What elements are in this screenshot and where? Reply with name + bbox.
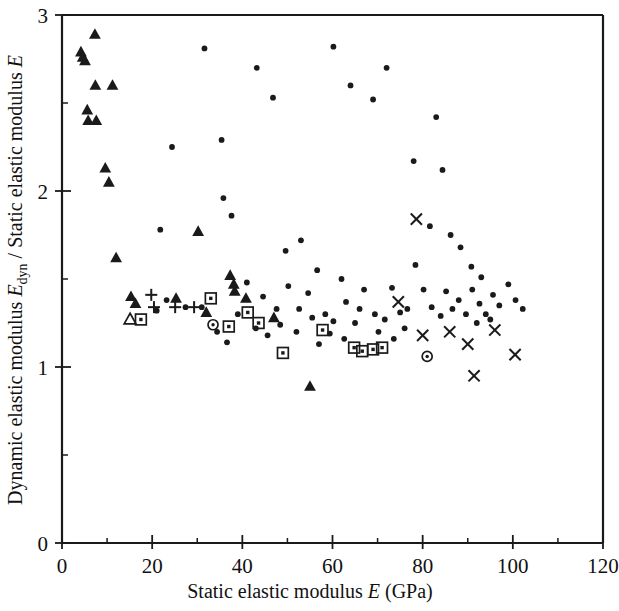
data-point-dot bbox=[382, 317, 388, 323]
data-point-filled-triangle bbox=[99, 162, 111, 173]
data-point-dot bbox=[469, 287, 475, 293]
data-point-dot bbox=[357, 306, 363, 312]
data-point-dot bbox=[235, 311, 241, 317]
data-point-filled-triangle bbox=[110, 252, 122, 263]
data-point-open-square-core bbox=[246, 311, 249, 314]
data-point-dot bbox=[254, 65, 260, 71]
y-tick-label: 2 bbox=[38, 180, 49, 204]
data-point-dot bbox=[404, 306, 410, 312]
data-point-dot bbox=[183, 304, 189, 310]
data-point-dot bbox=[438, 313, 444, 319]
data-point-filled-triangle bbox=[224, 269, 236, 280]
data-point-dot bbox=[520, 306, 526, 312]
data-point-filled-triangle bbox=[304, 380, 316, 391]
y-tick-label: 0 bbox=[38, 532, 49, 556]
chart-canvas: 020406080100120 0123 Static elastic modu… bbox=[0, 0, 619, 611]
data-point-dot bbox=[331, 318, 337, 324]
data-point-dot bbox=[477, 301, 483, 307]
data-point-dot bbox=[244, 280, 250, 286]
data-point-dot bbox=[483, 311, 489, 317]
data-point-open-square-core bbox=[380, 346, 383, 349]
data-point-dot bbox=[421, 287, 427, 293]
data-point-dot bbox=[229, 213, 235, 219]
data-point-dot bbox=[331, 44, 337, 50]
data-point-dot bbox=[199, 304, 205, 310]
data-point-dot bbox=[214, 329, 220, 335]
data-point-dot bbox=[270, 95, 276, 101]
data-point-dot bbox=[265, 332, 271, 338]
data-point-open-square-core bbox=[227, 325, 230, 328]
data-point-dot bbox=[513, 297, 519, 303]
y-tick-label: 3 bbox=[38, 4, 49, 28]
data-point-dot bbox=[316, 341, 322, 347]
data-point-dot bbox=[443, 288, 449, 294]
x-tick-label: 0 bbox=[57, 554, 68, 578]
data-point-dot bbox=[274, 306, 280, 312]
data-point-dot bbox=[348, 83, 354, 89]
y-axis-title-group: Dynamic elastic modulus Edyn / Static el… bbox=[4, 55, 30, 505]
data-point-open-square-core bbox=[321, 328, 324, 331]
data-point-dot bbox=[448, 232, 454, 238]
data-point-dot bbox=[474, 320, 480, 326]
data-point-dot bbox=[361, 287, 367, 293]
data-point-filled-triangle bbox=[192, 225, 204, 236]
data-point-filled-triangle bbox=[103, 176, 115, 187]
data-point-dot bbox=[224, 339, 230, 345]
data-point-filled-triangle bbox=[107, 79, 119, 90]
data-point-dot bbox=[429, 304, 435, 310]
data-point-dot bbox=[496, 303, 502, 309]
data-point-dot bbox=[478, 274, 484, 280]
data-point-dot bbox=[260, 294, 266, 300]
data-point-dot bbox=[339, 276, 345, 282]
data-point-dot bbox=[456, 297, 462, 303]
y-axis-tick-labels: 0123 bbox=[38, 4, 49, 556]
data-point-dot bbox=[450, 306, 456, 312]
data-point-filled-triangle bbox=[89, 28, 101, 39]
y-tick-label: 1 bbox=[38, 356, 49, 380]
data-point-circle-core bbox=[211, 323, 214, 326]
data-point-filled-triangle bbox=[240, 292, 252, 303]
plot-frame bbox=[62, 15, 603, 543]
data-point-dot bbox=[294, 329, 300, 335]
axis-spines bbox=[62, 15, 603, 543]
data-point-filled-triangle bbox=[90, 114, 102, 125]
x-tick-label: 120 bbox=[587, 554, 619, 578]
data-point-dot bbox=[169, 144, 175, 150]
data-point-dot bbox=[327, 331, 333, 337]
data-point-open-square-core bbox=[257, 321, 260, 324]
data-point-dot bbox=[505, 281, 511, 287]
data-point-dot bbox=[341, 336, 347, 342]
data-point-dot bbox=[490, 292, 496, 298]
data-point-dot bbox=[220, 195, 226, 201]
data-point-dot bbox=[427, 223, 433, 229]
x-tick-label: 100 bbox=[497, 554, 529, 578]
data-point-dot bbox=[370, 97, 376, 103]
data-point-dot bbox=[402, 325, 408, 331]
x-tick-label: 80 bbox=[412, 554, 433, 578]
data-point-open-triangle bbox=[124, 313, 136, 324]
data-point-open-square-core bbox=[361, 349, 364, 352]
data-point-open-square-core bbox=[281, 351, 284, 354]
data-point-dot bbox=[468, 264, 474, 270]
data-point-dot bbox=[219, 137, 225, 143]
data-point-open-square-core bbox=[139, 318, 142, 321]
data-point-dot bbox=[296, 306, 302, 312]
data-point-dot bbox=[389, 285, 395, 291]
x-tick-label: 40 bbox=[232, 554, 253, 578]
x-axis-title: Static elastic modulus E (GPa) bbox=[187, 580, 433, 603]
scatter-plot-figure: 020406080100120 0123 Static elastic modu… bbox=[0, 0, 619, 611]
data-markers-group bbox=[75, 28, 526, 391]
data-point-dot bbox=[154, 308, 160, 314]
data-point-filled-triangle bbox=[268, 312, 280, 323]
data-point-dot bbox=[433, 114, 439, 120]
data-point-dot bbox=[397, 310, 403, 316]
data-point-open-square-core bbox=[371, 348, 374, 351]
data-point-dot bbox=[202, 46, 208, 52]
data-point-dot bbox=[157, 227, 163, 233]
data-point-dot bbox=[352, 320, 358, 326]
data-point-dot bbox=[298, 237, 304, 243]
data-point-dot bbox=[458, 244, 464, 250]
data-point-dot bbox=[314, 267, 320, 273]
data-point-dot bbox=[305, 290, 311, 296]
data-point-dot bbox=[413, 262, 419, 268]
